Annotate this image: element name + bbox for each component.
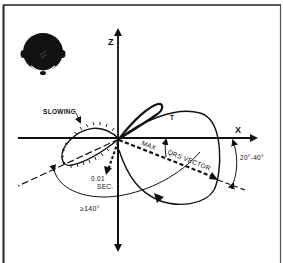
z-axis-label: Z — [108, 38, 114, 47]
qrs-vector-extension — [218, 180, 245, 190]
slowing-pointer — [76, 113, 80, 122]
qrs-vector-dashed — [119, 140, 216, 178]
angle-small-label: 20°-40° — [240, 155, 264, 162]
qrs-loop — [119, 111, 220, 204]
angle-large-label: ≥140° — [80, 205, 100, 212]
time-label-unit: SEC. — [97, 184, 113, 191]
head-top-view-icon — [21, 33, 66, 75]
x-axis-label: X — [235, 126, 241, 135]
slowing-label: SLOWING — [43, 109, 76, 116]
diagram-frame: Z X SLOWING T MAX QRS VECTOR 0.01 SEC. ≥… — [0, 0, 283, 263]
time-label-value: 0.01 — [91, 176, 105, 183]
qrs-vector-arrow-icon — [209, 172, 218, 180]
vector-0-01-arrow-icon — [104, 166, 112, 175]
t-loop-label: T — [170, 115, 174, 122]
qrs-loop-return — [119, 150, 158, 200]
angle-20-40-arc — [233, 141, 237, 184]
